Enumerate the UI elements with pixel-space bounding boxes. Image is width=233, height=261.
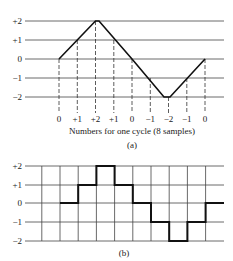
panel-a-gridlines	[25, 21, 224, 97]
panel-a: +2 +1 0 −1 −2 0 +1 +2 +1 0 −1 −2 −1	[12, 16, 224, 150]
sample-value: +2	[91, 114, 101, 124]
y-label: −2	[12, 92, 22, 102]
y-label: +2	[12, 161, 22, 171]
sample-value: 0	[57, 114, 62, 124]
sample-value: −2	[164, 114, 174, 124]
y-label: 0	[18, 54, 23, 64]
sample-value: −1	[182, 114, 192, 124]
sample-value-labels: 0 +1 +2 +1 0 −1 −2 −1 0	[57, 114, 208, 124]
y-label: −1	[12, 73, 22, 83]
y-label: −2	[12, 236, 22, 246]
panel-b-y-labels: +2 +1 0 −1 −2	[12, 161, 22, 246]
sample-value: +1	[109, 114, 119, 124]
sample-drop-lines	[59, 21, 205, 113]
sample-value: 0	[203, 114, 208, 124]
panel-label-a: (a)	[127, 140, 137, 150]
sample-value: 0	[130, 114, 135, 124]
axis-caption: Numbers for one cycle (8 samples)	[69, 126, 195, 136]
panel-b: +2 +1 0 −1 −2 (b)	[12, 161, 224, 258]
y-label: +2	[12, 16, 22, 26]
sample-value: −1	[146, 114, 156, 124]
y-label: +1	[12, 180, 22, 190]
y-label: 0	[18, 198, 23, 208]
panel-b-grid-horizontal	[25, 166, 224, 241]
panel-a-y-labels: +2 +1 0 −1 −2	[12, 16, 22, 102]
stepped-waveform	[60, 166, 224, 241]
panel-label-b: (b)	[119, 248, 130, 258]
y-label: +1	[12, 35, 22, 45]
y-label: −1	[12, 217, 22, 227]
sampling-diagram: +2 +1 0 −1 −2 0 +1 +2 +1 0 −1 −2 −1	[0, 0, 233, 261]
sample-value: +1	[73, 114, 83, 124]
